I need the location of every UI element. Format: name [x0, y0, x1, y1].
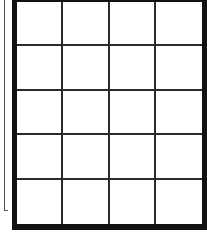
- grid-cell-r3-c3[interactable]: [110, 91, 156, 135]
- side-rule-line: [4, 0, 5, 211]
- grid-cell-r2-c2[interactable]: [63, 46, 109, 90]
- grid-cell-r2-c3[interactable]: [110, 46, 156, 90]
- grid-cell-r1-c2[interactable]: [63, 2, 109, 46]
- grid-cell-r5-c2[interactable]: [63, 180, 109, 224]
- grid-cell-r4-c2[interactable]: [63, 135, 109, 179]
- grid-cell-r1-c3[interactable]: [110, 2, 156, 46]
- grid-cell-r2-c1[interactable]: [17, 46, 63, 90]
- grid-cell-r3-c1[interactable]: [17, 91, 63, 135]
- grid-cell-r4-c3[interactable]: [110, 135, 156, 179]
- side-rule-tick: [4, 210, 8, 211]
- grid-cell-r1-c4[interactable]: [156, 2, 202, 46]
- grid-frame: [12, 0, 207, 230]
- grid-cell-r1-c1[interactable]: [17, 2, 63, 46]
- grid-cell-r2-c4[interactable]: [156, 46, 202, 90]
- grid-cell-r3-c2[interactable]: [63, 91, 109, 135]
- grid-cell-r5-c4[interactable]: [156, 180, 202, 224]
- empty-grid: [17, 2, 202, 224]
- grid-cell-r3-c4[interactable]: [156, 91, 202, 135]
- grid-cell-r5-c3[interactable]: [110, 180, 156, 224]
- grid-cell-r4-c1[interactable]: [17, 135, 63, 179]
- grid-cell-r5-c1[interactable]: [17, 180, 63, 224]
- grid-cell-r4-c4[interactable]: [156, 135, 202, 179]
